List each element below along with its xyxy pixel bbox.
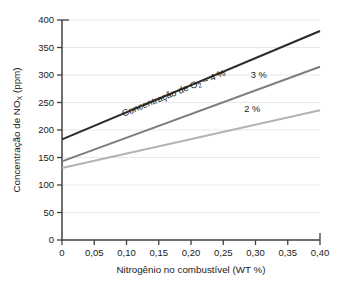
y-tick-label: 100 — [38, 179, 54, 190]
x-tick-label: 0,40 — [311, 247, 330, 258]
y-tick-label: 50 — [43, 207, 54, 218]
chart-figure: 050100150200250300350400 00,050,100,150,… — [0, 0, 347, 290]
x-axis-title: Nitrogênio no combustível (WT %) — [116, 264, 265, 275]
x-tick-label: 0,15 — [150, 247, 169, 258]
y-tick-label: 400 — [38, 14, 54, 25]
y-tick-label: 0 — [49, 234, 54, 245]
x-tick-label: 0,25 — [214, 247, 233, 258]
x-tick-label: 0,10 — [117, 247, 136, 258]
y-axis-title: Concentração de NOX (ppm) — [11, 67, 23, 192]
y-tick-label: 250 — [38, 97, 54, 108]
x-tick-label: 0,35 — [279, 247, 298, 258]
y-tick-label: 200 — [38, 124, 54, 135]
x-tick-label: 0,30 — [246, 247, 265, 258]
three-percent-label: 3 % — [251, 70, 267, 80]
x-tick-label: 0 — [59, 247, 64, 258]
y-tick-label: 350 — [38, 42, 54, 53]
y-tick-label: 300 — [38, 69, 54, 80]
x-tick-label: 0,20 — [182, 247, 201, 258]
two-percent-label: 2 % — [244, 104, 260, 114]
x-axis-tick-labels: 00,050,100,150,200,250,300,350,40 — [59, 247, 329, 258]
x-axis-title-label: Nitrogênio no combustível (WT %) — [116, 264, 265, 275]
y-tick-label: 150 — [38, 152, 54, 163]
line-chart: 050100150200250300350400 00,050,100,150,… — [0, 0, 347, 290]
x-tick-label: 0,05 — [85, 247, 104, 258]
y-axis-title-label: Concentração de NOX (ppm) — [11, 67, 23, 192]
